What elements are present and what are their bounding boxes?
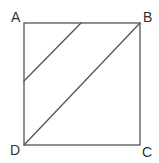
vertex-label-a: A [11, 10, 20, 24]
diagram-canvas [0, 0, 159, 163]
square-diagram: A B C D [0, 0, 159, 163]
diagonal-db [24, 23, 140, 145]
parallel-segment [24, 23, 81, 81]
vertex-label-b: B [143, 10, 152, 24]
vertex-label-c: C [142, 145, 152, 159]
vertex-label-d: D [10, 143, 20, 157]
